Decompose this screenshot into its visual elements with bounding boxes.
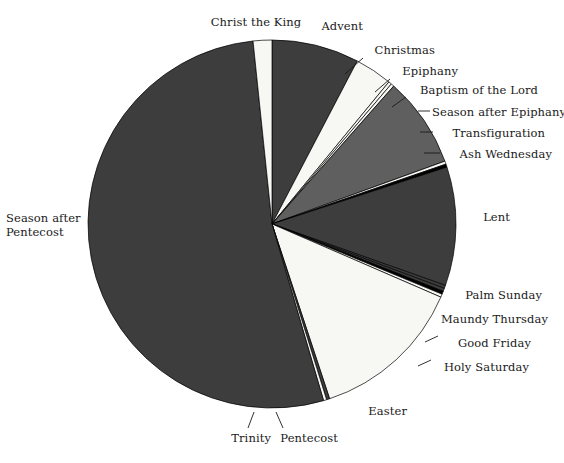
pie-label-christ-the-king: Christ the King: [206, 16, 306, 30]
pie-label-lent: Lent: [470, 211, 510, 225]
leader-line-good-friday: [425, 336, 438, 342]
pie-label-good-friday: Good Friday: [441, 337, 531, 351]
pie-label-palm-sunday: Palm Sunday: [452, 289, 542, 303]
leader-line-pentecost: [276, 412, 283, 428]
leader-line-holy-saturday: [418, 360, 431, 366]
pie-label-trinity: Trinity: [216, 432, 271, 446]
pie-label-ash-wednesday: Ash Wednesday: [442, 148, 552, 162]
leader-line-trinity: [248, 412, 254, 428]
pie-chart-figure: Christ the KingAdventChristmasEpiphanyBa…: [0, 0, 564, 463]
pie-slices-group: [88, 40, 456, 408]
pie-label-advent: Advent: [303, 20, 363, 34]
pie-label-epiphany: Epiphany: [392, 65, 458, 79]
pie-label-maundy-thursday: Maundy Thursday: [438, 313, 548, 327]
pie-label-baptism-of-the-lord: Baptism of the Lord: [408, 84, 538, 98]
pie-label-season-after-pentecost: Season after Pentecost: [6, 212, 96, 239]
pie-label-season-after-epiphany: Season after Epiphany: [432, 106, 564, 120]
pie-label-pentecost: Pentecost: [268, 432, 338, 446]
pie-label-easter: Easter: [352, 405, 407, 419]
pie-label-christmas: Christmas: [365, 44, 435, 58]
pie-label-holy-saturday: Holy Saturday: [434, 361, 529, 375]
pie-label-transfiguration: Transfiguration: [435, 127, 545, 141]
